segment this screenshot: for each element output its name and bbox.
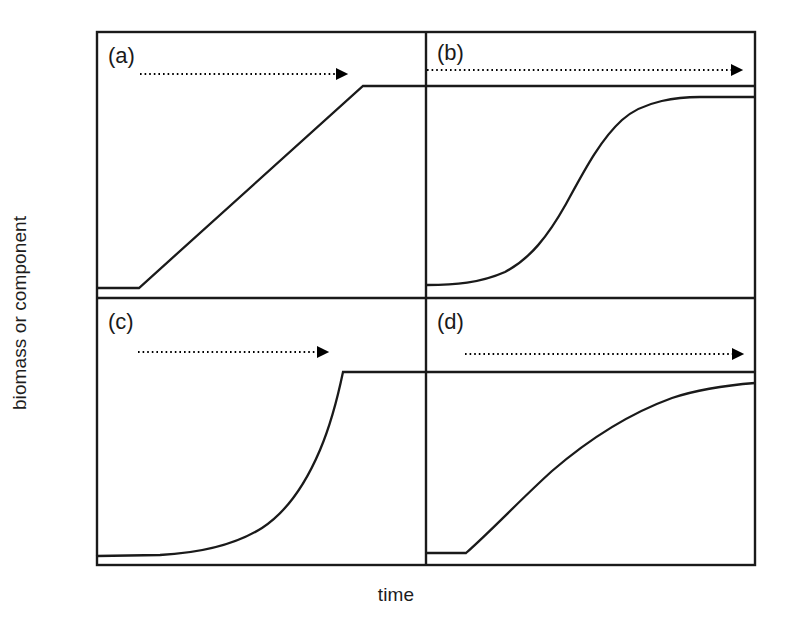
panel-frames [97, 32, 755, 565]
panel-a-tag: (a) [108, 43, 135, 68]
x-axis-label: time [0, 584, 792, 606]
growth-curve-figure: (a) (b) (c) (d) biomass or component tim… [0, 0, 792, 626]
panel-d-tag: (d) [437, 309, 464, 334]
panel-b-tag: (b) [437, 40, 464, 65]
panel-c-tag: (c) [108, 309, 134, 334]
y-axis-label: biomass or component [0, 0, 40, 626]
panel-d-curve [427, 383, 755, 553]
figure-canvas: (a) (b) (c) (d) [0, 0, 792, 626]
panel-b: (b) [427, 40, 755, 285]
panel-d: (d) [427, 309, 755, 553]
panel-b-curve [427, 97, 755, 285]
